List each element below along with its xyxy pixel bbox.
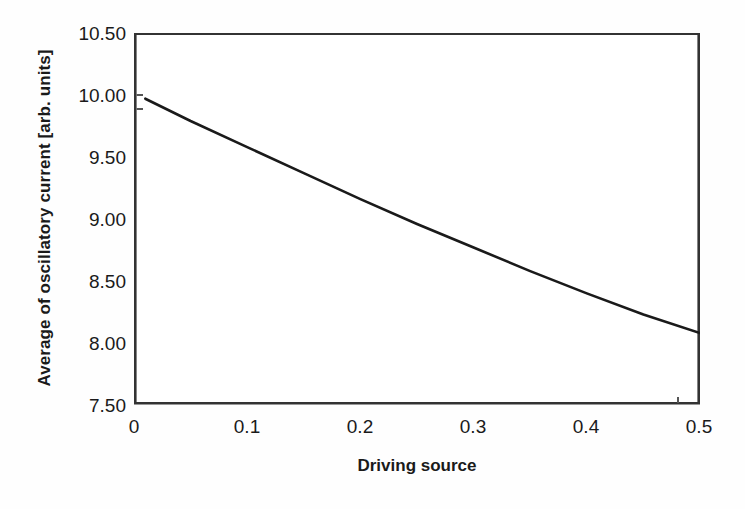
plot-area [134,33,700,405]
y-tick-label: 10.00 [44,86,126,105]
x-tick-label: 0.3 [438,417,508,436]
x-tick-label: 0 [99,417,169,436]
y-tick-label: 8.00 [44,334,126,353]
x-tick-label: 0.2 [325,417,395,436]
x-tick-label: 0.4 [551,417,621,436]
axis-frame [134,33,700,404]
y-tick-label: 10.50 [44,24,126,43]
x-axis-title: Driving source [134,456,700,476]
y-tick-label: 9.00 [44,210,126,229]
chart-figure: Average of oscillatory current [arb. uni… [0,0,745,509]
y-tick-label: 8.50 [44,272,126,291]
plot-canvas [134,33,700,405]
data-series-line [145,99,700,333]
x-axis-tick-labels: 0 0.1 0.2 0.3 0.4 0.5 [0,417,745,447]
axis-ticks [137,95,678,403]
x-tick-label: 0.1 [212,417,282,436]
y-tick-label: 7.50 [44,396,126,415]
y-tick-label: 9.50 [44,148,126,167]
x-tick-label: 0.5 [664,417,734,436]
